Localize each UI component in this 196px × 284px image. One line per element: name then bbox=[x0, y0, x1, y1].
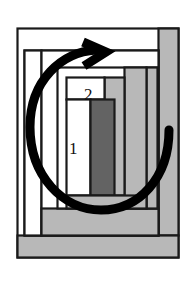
region-label-2: 2 bbox=[84, 86, 93, 103]
region-label-1: 1 bbox=[69, 140, 78, 157]
nested-rectangle-diagram bbox=[0, 0, 196, 284]
figure-canvas: 1 2 bbox=[0, 0, 196, 284]
dark-bar bbox=[91, 100, 115, 196]
gray-column-right bbox=[125, 68, 147, 209]
bottom-gray-band bbox=[18, 236, 179, 258]
